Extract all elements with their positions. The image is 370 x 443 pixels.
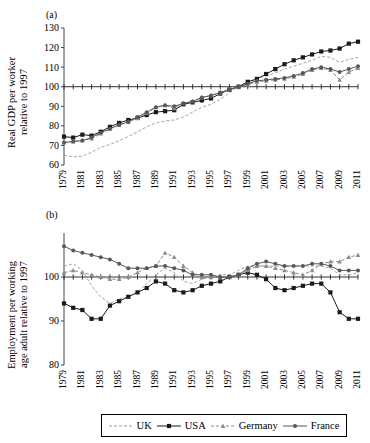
data-point-marker bbox=[283, 76, 287, 80]
data-point-marker bbox=[356, 317, 360, 321]
data-point-marker bbox=[338, 70, 342, 74]
data-point-marker bbox=[71, 249, 75, 253]
data-point-marker bbox=[356, 253, 361, 257]
data-point-marker bbox=[181, 290, 185, 294]
data-point-marker bbox=[181, 268, 185, 272]
data-point-marker bbox=[255, 273, 259, 277]
data-point-marker bbox=[319, 262, 323, 266]
data-point-marker bbox=[167, 423, 171, 427]
panel-b: (b) Employment per working age adult rel… bbox=[0, 205, 370, 405]
x-tick-label: 1995 bbox=[206, 370, 216, 389]
data-point-marker bbox=[347, 268, 351, 272]
x-tick-label: 1983 bbox=[96, 170, 106, 189]
data-point-marker bbox=[319, 282, 323, 286]
data-point-marker bbox=[163, 282, 167, 286]
data-point-marker bbox=[209, 273, 213, 277]
data-point-marker bbox=[292, 58, 296, 62]
x-tick-label: 2005 bbox=[298, 170, 308, 189]
data-point-marker bbox=[328, 48, 332, 52]
x-tick-label: 1993 bbox=[188, 370, 198, 389]
data-point-marker bbox=[273, 67, 277, 71]
data-point-marker bbox=[99, 131, 103, 135]
series-germany bbox=[62, 66, 361, 145]
x-tick-label: 1995 bbox=[206, 170, 216, 189]
y-tick-label: 130 bbox=[44, 22, 59, 33]
legend-item-germany[interactable]: Germany bbox=[210, 420, 279, 432]
legend-item-uk[interactable]: UK bbox=[108, 420, 153, 432]
data-point-marker bbox=[246, 82, 250, 86]
data-point-marker bbox=[136, 115, 140, 119]
x-tick-label: 1987 bbox=[133, 170, 143, 189]
data-point-marker bbox=[191, 99, 195, 103]
x-tick-label: 2007 bbox=[316, 170, 326, 189]
panel-a-y-axis-label: Real GDP per worker relative to 1997 bbox=[6, 30, 32, 175]
data-point-marker bbox=[181, 101, 185, 105]
series-line bbox=[64, 246, 358, 277]
series-france bbox=[62, 64, 360, 144]
y-tick-label: 100 bbox=[44, 271, 59, 282]
data-point-marker bbox=[301, 284, 305, 288]
data-point-marker bbox=[71, 268, 76, 272]
series-france bbox=[62, 244, 360, 279]
data-point-marker bbox=[191, 273, 195, 277]
x-tick-label: 1989 bbox=[151, 170, 161, 189]
data-point-marker bbox=[338, 268, 342, 272]
data-point-marker bbox=[200, 273, 204, 277]
data-point-marker bbox=[301, 71, 305, 75]
x-tick-label: 1981 bbox=[77, 370, 87, 389]
legend-item-france[interactable]: France bbox=[282, 420, 341, 432]
legend-label: Germany bbox=[238, 420, 279, 431]
data-point-marker bbox=[301, 55, 305, 59]
data-point-marker bbox=[292, 74, 296, 78]
x-tick-label: 2005 bbox=[298, 370, 308, 389]
data-point-marker bbox=[237, 85, 241, 89]
data-point-marker bbox=[89, 317, 93, 321]
x-tick-label: 2009 bbox=[335, 370, 345, 389]
data-point-marker bbox=[145, 110, 149, 114]
x-tick-label: 1991 bbox=[169, 370, 179, 389]
data-point-marker bbox=[255, 79, 259, 83]
data-point-marker bbox=[172, 266, 176, 270]
x-tick-label: 1997 bbox=[224, 170, 234, 189]
data-point-marker bbox=[264, 260, 268, 264]
data-point-marker bbox=[62, 135, 66, 139]
data-point-marker bbox=[154, 264, 158, 268]
legend-item-usa[interactable]: USA bbox=[156, 420, 207, 432]
data-point-marker bbox=[172, 288, 176, 292]
data-point-marker bbox=[264, 277, 268, 281]
data-point-marker bbox=[293, 424, 297, 428]
x-tick-label: 1981 bbox=[77, 170, 87, 189]
data-point-marker bbox=[154, 105, 158, 109]
data-point-marker bbox=[218, 275, 222, 279]
data-point-marker bbox=[80, 251, 84, 255]
data-point-marker bbox=[163, 109, 167, 113]
data-point-marker bbox=[90, 136, 94, 140]
series-usa bbox=[62, 40, 360, 140]
panel-b-tag: (b) bbox=[46, 210, 58, 220]
data-point-marker bbox=[99, 317, 103, 321]
data-point-marker bbox=[218, 279, 222, 283]
data-point-marker bbox=[356, 64, 360, 68]
panel-b-chart: 8090100 bbox=[36, 231, 364, 371]
data-point-marker bbox=[71, 306, 75, 310]
data-point-marker bbox=[200, 284, 204, 288]
data-point-marker bbox=[90, 253, 94, 257]
data-point-marker bbox=[237, 273, 241, 277]
x-tick-label: 2009 bbox=[335, 170, 345, 189]
data-point-marker bbox=[62, 244, 66, 248]
panel-b-plot-area: 8090100 bbox=[36, 231, 364, 371]
y-tick-label: 100 bbox=[44, 81, 59, 92]
data-point-marker bbox=[154, 279, 158, 283]
data-point-marker bbox=[255, 262, 259, 266]
data-point-marker bbox=[319, 49, 323, 53]
data-point-marker bbox=[80, 308, 84, 312]
data-point-marker bbox=[163, 103, 167, 107]
data-point-marker bbox=[328, 67, 332, 71]
x-tick-label: 2003 bbox=[280, 370, 290, 389]
data-point-marker bbox=[126, 295, 130, 299]
x-tick-label: 1987 bbox=[133, 370, 143, 389]
legend-swatch-usa bbox=[156, 420, 182, 432]
data-point-marker bbox=[154, 110, 158, 114]
legend-label: UK bbox=[136, 420, 153, 431]
y-tick-label: 90 bbox=[49, 101, 59, 112]
